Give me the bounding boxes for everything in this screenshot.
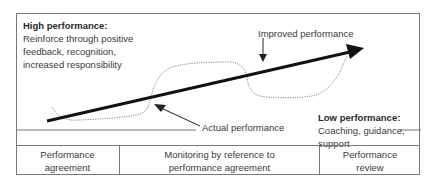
stage-line: review bbox=[343, 161, 397, 174]
stage-line: Performance bbox=[40, 148, 94, 161]
stage-line: Monitoring by reference to bbox=[164, 148, 274, 161]
stage-line: agreement bbox=[40, 161, 94, 174]
high-performance-title: High performance: bbox=[23, 19, 133, 32]
low-performance-title: Low performance: bbox=[318, 111, 405, 124]
actual-label-pointer-arrowhead-icon bbox=[154, 104, 166, 112]
stage-monitoring: Monitoring by reference to performance a… bbox=[120, 146, 320, 175]
actual-label-pointer bbox=[161, 108, 200, 126]
low-performance-line: Coaching, guidance, bbox=[318, 124, 405, 137]
stage-line: Performance bbox=[343, 148, 397, 161]
actual-performance-label: Actual performance bbox=[202, 122, 284, 133]
stage-performance-review: Performance review bbox=[320, 146, 420, 175]
high-performance-line: increased responsibility bbox=[23, 58, 133, 71]
stage-performance-agreement: Performance agreement bbox=[16, 146, 120, 175]
stages-row: Performance agreement Monitoring by refe… bbox=[16, 145, 420, 175]
improved-label-pointer-arrowhead-icon bbox=[259, 54, 267, 62]
improved-performance-label: Improved performance bbox=[258, 28, 354, 39]
high-performance-line: Reinforce through positive bbox=[23, 32, 133, 45]
high-performance-line: feedback, recognition, bbox=[23, 45, 133, 58]
high-performance-note: High performance: Reinforce through posi… bbox=[23, 19, 133, 71]
improved-performance-arrowhead-icon bbox=[346, 44, 364, 59]
performance-management-diagram: High performance: Reinforce through posi… bbox=[0, 0, 439, 182]
stage-line: performance agreement bbox=[164, 161, 274, 174]
